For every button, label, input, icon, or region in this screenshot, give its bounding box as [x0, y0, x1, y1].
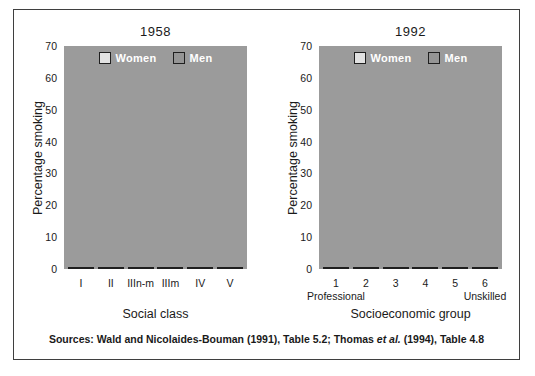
x-tick-sublabel: Unskilled [472, 290, 498, 302]
women-swatch-icon [99, 52, 111, 64]
y-axis-ticks: 010203040506070 [14, 46, 60, 269]
y-tick-label: 10 [272, 231, 312, 243]
bar-women-IIIm [157, 267, 170, 269]
source-note-italic: et al. [377, 333, 401, 345]
legend-item-women: Women [354, 52, 412, 64]
bar-women-2 [353, 267, 366, 269]
y-tick-label: 70 [17, 40, 57, 52]
x-tick-label: V [217, 277, 243, 289]
chart-title: 1992 [319, 24, 502, 39]
legend-item-women: Women [99, 52, 157, 64]
bar-women-3 [383, 267, 396, 269]
legend-item-men: Men [173, 52, 213, 64]
x-axis-ticks: IIIIIIn-mIIImIVV [64, 277, 247, 289]
x-tick-label: 5 [442, 277, 468, 289]
bar-group-1 [323, 267, 349, 269]
legend: Women Men [319, 52, 502, 64]
y-axis-ticks: 010203040506070 [269, 46, 315, 269]
x-tick-label: IV [187, 277, 213, 289]
bars-row [319, 46, 502, 269]
y-tick-label: 20 [17, 199, 57, 211]
x-tick-label: 2 [353, 277, 379, 289]
y-tick-label: 0 [272, 263, 312, 275]
x-axis-ticks: 123456 [319, 277, 502, 289]
bar-women-6 [472, 267, 485, 269]
legend-label-men: Men [445, 52, 468, 64]
y-tick-label: 20 [272, 199, 312, 211]
figure-frame: 1958 Percentage smoking 010203040506070 … [13, 9, 520, 360]
bar-group-V [217, 267, 243, 269]
y-tick-label: 30 [272, 167, 312, 179]
source-note: Sources: Wald and Nicolaides-Bouman (199… [14, 333, 519, 345]
bar-group-I [68, 267, 94, 269]
bar-group-2 [353, 267, 379, 269]
y-tick-label: 60 [17, 72, 57, 84]
bar-men-4 [425, 267, 438, 269]
x-axis-title: Social class [64, 307, 247, 321]
x-axis-sublabels: ProfessionalUnskilled [319, 290, 502, 302]
bar-men-6 [485, 267, 498, 269]
y-tick-label: 10 [17, 231, 57, 243]
y-tick-label: 40 [272, 136, 312, 148]
y-tick-label: 30 [17, 167, 57, 179]
y-tick-label: 50 [17, 104, 57, 116]
bar-women-1 [323, 267, 336, 269]
x-tick-label: 1 [323, 277, 349, 289]
bar-women-5 [442, 267, 455, 269]
legend-label-men: Men [190, 52, 213, 64]
y-tick-label: 0 [17, 263, 57, 275]
bar-men-I [81, 267, 94, 269]
bar-group-IV [187, 267, 213, 269]
bar-women-IIIn-m [128, 267, 141, 269]
x-tick-label: 3 [383, 277, 409, 289]
bar-group-3 [383, 267, 409, 269]
x-tick-sublabel [383, 290, 409, 302]
chart-title: 1958 [64, 24, 247, 39]
bar-men-2 [366, 267, 379, 269]
men-swatch-icon [173, 52, 185, 64]
legend-item-men: Men [428, 52, 468, 64]
bar-women-4 [412, 267, 425, 269]
x-tick-label: IIIn-m [128, 277, 154, 289]
bar-women-I [68, 267, 81, 269]
x-tick-sublabel: Professional [323, 290, 349, 302]
source-note-suffix: (1994), Table 4.8 [401, 333, 484, 345]
bar-women-V [217, 267, 230, 269]
x-tick-label: IIIm [157, 277, 183, 289]
y-tick-label: 70 [272, 40, 312, 52]
bar-men-1 [336, 267, 349, 269]
legend: Women Men [64, 52, 247, 64]
x-axis-title: Socioeconomic group [319, 307, 502, 321]
x-tick-sublabel [353, 290, 379, 302]
chart-1958: 1958 Percentage smoking 010203040506070 … [14, 10, 261, 359]
source-note-prefix: Sources: Wald and Nicolaides-Bouman (199… [49, 333, 377, 345]
bar-men-IIIm [170, 267, 183, 269]
legend-label-women: Women [116, 52, 157, 64]
bar-group-IIIn-m [128, 267, 154, 269]
bar-group-II [98, 267, 124, 269]
figure-canvas: 1958 Percentage smoking 010203040506070 … [0, 0, 535, 376]
x-tick-label: 4 [412, 277, 438, 289]
bar-men-IV [200, 267, 213, 269]
bars-row [64, 46, 247, 269]
bar-group-5 [442, 267, 468, 269]
legend-label-women: Women [371, 52, 412, 64]
bar-men-V [230, 267, 243, 269]
bar-men-3 [396, 267, 409, 269]
women-swatch-icon [354, 52, 366, 64]
bar-women-II [98, 267, 111, 269]
plot-area: Women Men [319, 46, 502, 269]
y-tick-label: 50 [272, 104, 312, 116]
y-tick-label: 60 [272, 72, 312, 84]
y-tick-label: 40 [17, 136, 57, 148]
bar-group-4 [412, 267, 438, 269]
bar-group-IIIm [157, 267, 183, 269]
x-tick-label: 6 [472, 277, 498, 289]
x-tick-label: II [98, 277, 124, 289]
bar-women-IV [187, 267, 200, 269]
plot-area: Women Men [64, 46, 247, 269]
bar-group-6 [472, 267, 498, 269]
bar-men-IIIn-m [141, 267, 154, 269]
bar-men-II [111, 267, 124, 269]
chart-1992: 1992 Percentage smoking 010203040506070 … [269, 10, 521, 359]
